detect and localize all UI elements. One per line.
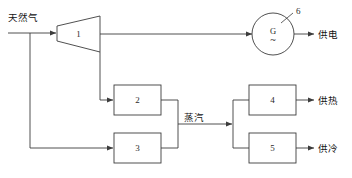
unit-5-label: 5: [270, 143, 275, 153]
unit-3-label: 3: [135, 143, 140, 153]
flow-diagram: 1 G ~ 6 2 3 4 5: [0, 0, 352, 178]
unit-2-label: 2: [135, 95, 140, 105]
steam-label: 蒸汽: [184, 112, 204, 123]
generator-ref-leader-line: [281, 13, 293, 23]
cooling-supply-label: 供冷: [318, 143, 338, 154]
power-supply-label: 供电: [318, 29, 338, 40]
diagram-canvas: 1 G ~ 6 2 3 4 5: [0, 0, 352, 178]
unit-4-label: 4: [270, 95, 275, 105]
generator-symbol: G: [270, 26, 276, 36]
heat-supply-label: 供热: [318, 95, 338, 106]
generator-wave-icon: ~: [270, 36, 277, 45]
natural-gas-label: 天然气: [8, 12, 38, 23]
turbine-label: 1: [76, 29, 81, 39]
generator-ref-number: 6: [296, 6, 301, 16]
